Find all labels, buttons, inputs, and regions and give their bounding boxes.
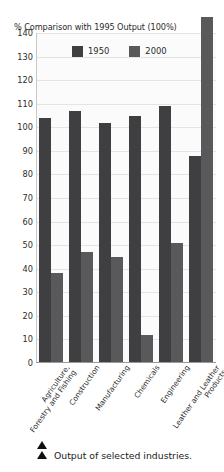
y-tick-label: 140 [3,29,33,37]
bar-2000 [171,243,183,363]
chart-figure: % Comparison with 1995 Output (100%) 195… [0,0,224,472]
bar-2000 [201,17,213,364]
bar-2000 [51,273,63,363]
y-tick-label: 110 [3,100,33,108]
y-tick-label: 120 [3,76,33,84]
x-axis-category-labels: Agriculture,Forestry and FishingConstruc… [36,364,224,442]
legend-label-2000: 2000 [145,47,166,55]
bar-group [156,33,186,363]
caption-markers [37,441,47,459]
x-tick-label: Engineering [160,364,192,405]
y-tick-label: 100 [3,123,33,131]
bar-group [126,33,156,363]
y-tick-label: 40 [3,265,33,273]
bar-1950 [69,111,81,363]
bar-2000 [111,257,123,363]
y-tick-label: 130 [3,52,33,60]
bar-group [66,33,96,363]
legend-swatch-2000 [129,46,140,57]
bar-1950 [189,156,201,363]
x-tick-label-line: Agriculture, [22,364,72,430]
bar-1950 [129,116,141,364]
caption-text: Output of selected industries. [54,451,192,460]
y-tick-label: 20 [3,312,33,320]
y-tick-label: 80 [3,170,33,178]
bar-1950 [159,106,171,363]
y-axis-tick-labels: 1401301201101009080706050403020100 [0,33,33,363]
y-tick-label: 70 [3,194,33,202]
bar-2000 [141,335,153,363]
bar-1950 [39,118,51,363]
figure-caption: Output of selected industries. [37,441,192,460]
triangle-up-icon [37,451,47,459]
y-tick-label: 0 [3,359,33,367]
legend-item-2000: 2000 [129,46,166,57]
bar-group [36,33,66,363]
x-tick-label: Chemicals [133,364,162,400]
x-tick-label-line: Chemicals [133,364,162,400]
x-tick-label-line: Engineering [160,364,192,405]
bar-1950 [99,123,111,363]
bar-2000 [81,252,93,363]
y-tick-label: 60 [3,217,33,225]
y-tick-label: 30 [3,288,33,296]
legend-item-1950: 1950 [72,46,109,57]
legend-swatch-1950 [72,46,83,57]
y-tick-label: 90 [3,147,33,155]
legend-label-1950: 1950 [88,47,109,55]
y-axis-line [36,33,37,363]
plot-area [36,33,216,363]
chart-legend: 1950 2000 [72,46,167,57]
y-tick-label: 50 [3,241,33,249]
triangle-up-icon [37,441,47,449]
bar-group [96,33,126,363]
chart-title: % Comparison with 1995 Output (100%) [14,22,177,32]
y-tick-label: 10 [3,335,33,343]
bar-group [186,33,216,363]
